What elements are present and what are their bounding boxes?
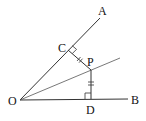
label-c: C — [58, 41, 66, 55]
angle-bisector-diagram: A B C P D O — [0, 0, 146, 121]
label-b: B — [131, 93, 139, 107]
label-a: A — [98, 4, 107, 18]
ray-ob — [20, 99, 128, 100]
label-d: D — [86, 103, 95, 117]
angle-bisector — [20, 58, 120, 100]
label-p: P — [87, 55, 94, 69]
right-angle-mark-d — [85, 93, 91, 99]
right-angle-mark-c — [72, 46, 76, 54]
label-o: O — [8, 94, 17, 108]
